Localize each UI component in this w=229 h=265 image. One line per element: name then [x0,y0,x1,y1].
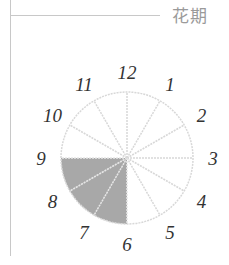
month-label-9: 9 [36,148,46,169]
month-label-7: 7 [79,222,90,243]
month-label-4: 4 [197,191,207,212]
month-label-12: 12 [118,62,138,83]
wheel-spoke [94,101,127,158]
wheel-spoke [127,125,184,158]
month-label-8: 8 [48,191,58,212]
wheel-spoke [127,101,160,158]
month-label-6: 6 [122,234,132,255]
month-label-11: 11 [75,74,93,95]
month-label-1: 1 [165,74,175,95]
month-label-5: 5 [165,222,175,243]
month-label-3: 3 [207,148,218,169]
wheel-spoke [70,125,127,158]
wheel-spoke [127,158,184,191]
month-label-2: 2 [197,105,207,126]
month-label-10: 10 [43,105,63,126]
flowering-month-wheel: 123456789101112 [0,0,229,265]
wheel-spoke [127,158,160,215]
